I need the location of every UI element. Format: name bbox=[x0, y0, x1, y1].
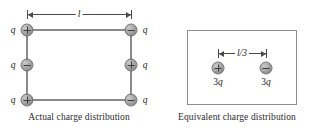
panel-actual-charge-distribution: l q q q q q q Actual c bbox=[0, 0, 158, 136]
eq-dimension-arrowhead-left bbox=[219, 51, 224, 57]
charge-top-right bbox=[125, 24, 138, 37]
eq-dimension-arrowhead-right bbox=[261, 51, 266, 57]
charge-bottom-left bbox=[21, 94, 34, 107]
dimension-arrowhead-right bbox=[126, 12, 131, 18]
dimension-tick-right bbox=[131, 10, 132, 19]
plus-icon bbox=[126, 60, 137, 71]
wire-bottom bbox=[27, 99, 131, 100]
caption-actual: Actual charge distribution bbox=[0, 112, 158, 122]
minus-icon bbox=[126, 95, 137, 106]
charge-middle-right bbox=[125, 59, 138, 72]
minus-icon bbox=[22, 60, 33, 71]
charge-top-left bbox=[21, 24, 34, 37]
plus-icon bbox=[213, 63, 224, 74]
charge-label-bottom-right: q bbox=[143, 95, 148, 105]
panel-equivalent-charge-distribution: l/3 3q 3q Equivalent charge distribution bbox=[158, 0, 316, 136]
eq-right-symbol: q bbox=[266, 77, 271, 87]
charge-label-top-right: q bbox=[143, 25, 148, 35]
wire-top bbox=[27, 29, 131, 30]
eq-dimension-label: l/3 bbox=[235, 48, 249, 58]
charge-equivalent-left bbox=[212, 62, 225, 75]
figure-charge-distribution: l q q q q q q Actual c bbox=[0, 0, 316, 136]
minus-icon bbox=[126, 25, 137, 36]
eq-left-symbol: q bbox=[218, 77, 223, 87]
equivalent-box bbox=[187, 30, 297, 105]
caption-equivalent: Equivalent charge distribution bbox=[158, 112, 316, 122]
charge-label-bottom-left: q bbox=[11, 95, 16, 105]
minus-icon bbox=[261, 63, 272, 74]
eq-dimension-tick-right bbox=[266, 49, 267, 58]
dimension-arrowhead-left bbox=[28, 12, 33, 18]
charge-label-middle-left: q bbox=[11, 60, 16, 70]
dimension-label-l: l bbox=[76, 9, 83, 19]
charge-bottom-right bbox=[125, 94, 138, 107]
charge-equivalent-right bbox=[260, 62, 273, 75]
plus-icon bbox=[22, 95, 33, 106]
charge-label-top-left: q bbox=[11, 25, 16, 35]
charge-label-equivalent-left: 3q bbox=[213, 77, 223, 87]
plus-icon bbox=[22, 25, 33, 36]
charge-label-equivalent-right: 3q bbox=[261, 77, 271, 87]
charge-middle-left bbox=[21, 59, 34, 72]
charge-label-middle-right: q bbox=[143, 60, 148, 70]
